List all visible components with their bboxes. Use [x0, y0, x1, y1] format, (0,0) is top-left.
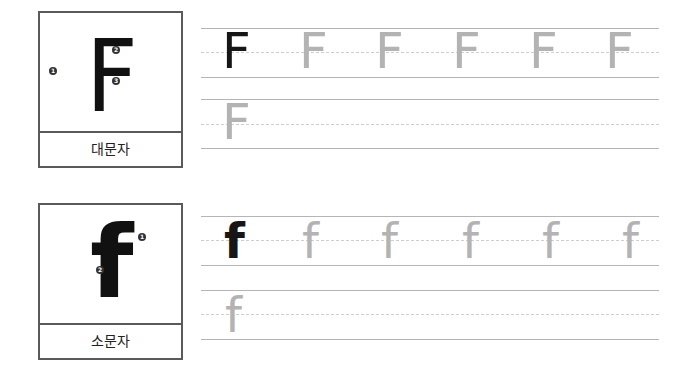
lower-row1-mid-line — [201, 240, 659, 241]
stroke-number-2: 2 — [112, 46, 120, 54]
lower-row1-top-line — [201, 216, 659, 217]
lowercase-glyph-area: f 1 2 — [40, 205, 181, 325]
uppercase-label: 대문자 — [40, 133, 181, 166]
lower-row2-base-line — [201, 339, 659, 340]
lower-trace-letter: f — [542, 217, 559, 265]
upper-row1-mid-line — [201, 52, 659, 53]
lower-trace-letter: f — [622, 217, 639, 265]
upper-row2-top-line — [201, 99, 659, 100]
lowercase-model-box: f 1 2 소문자 — [38, 203, 183, 360]
upper-trace-letter: F — [605, 26, 634, 76]
upper-trace-letter: F — [299, 26, 328, 76]
upper-row1-base-line — [201, 77, 659, 78]
uppercase-model-box: F 1 2 3 대문자 — [38, 11, 183, 168]
lower-row2-top-line — [201, 290, 659, 291]
upper-row1-top-line — [201, 28, 659, 29]
upper-trace-letter: F — [452, 26, 481, 76]
lower-practice-letter-model: f — [224, 217, 245, 265]
stroke-number-1: 1 — [138, 233, 146, 241]
lowercase-model-letter: f — [90, 213, 134, 313]
lower-trace-letter: f — [462, 217, 479, 265]
stroke-number-3: 3 — [112, 77, 120, 85]
lower-row2-trace-letter: f — [225, 291, 242, 339]
upper-trace-letter: F — [375, 26, 404, 76]
upper-row2-trace-letter: F — [222, 97, 251, 147]
stroke-number-1: 1 — [49, 67, 57, 75]
lower-row2-mid-line — [201, 314, 659, 315]
lower-row1-base-line — [201, 265, 659, 266]
lower-trace-letter: f — [381, 217, 398, 265]
upper-trace-letter: F — [529, 26, 558, 76]
uppercase-model-letter: F — [86, 27, 138, 127]
uppercase-glyph-area: F 1 2 3 — [40, 13, 181, 133]
upper-row2-mid-line — [201, 124, 659, 125]
lowercase-label: 소문자 — [40, 325, 181, 358]
stroke-number-2: 2 — [96, 266, 104, 274]
upper-row2-base-line — [201, 148, 659, 149]
lower-trace-letter: f — [302, 217, 319, 265]
upper-practice-letter-model: F — [222, 26, 251, 76]
